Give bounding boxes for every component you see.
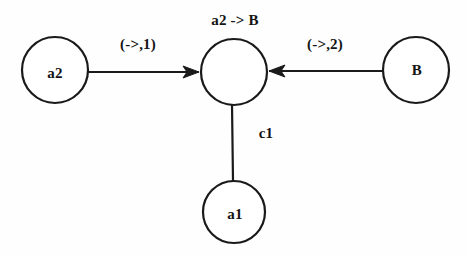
node-circle-b[interactable]: [383, 37, 449, 103]
edge-line-center-to-a1: [232, 104, 233, 181]
node-circle-center[interactable]: [201, 39, 267, 105]
edge-b-to-center: [269, 65, 383, 77]
edge-a2-to-center: [89, 66, 199, 78]
node-circle-a1[interactable]: [203, 181, 265, 243]
edge-center-to-a1: [232, 104, 233, 181]
node-circle-a2[interactable]: [22, 37, 88, 103]
graph-drawing: [0, 0, 467, 255]
diagram-canvas: a2 B a1 a2 -> B (->,1) (->,2) c1: [0, 0, 467, 255]
